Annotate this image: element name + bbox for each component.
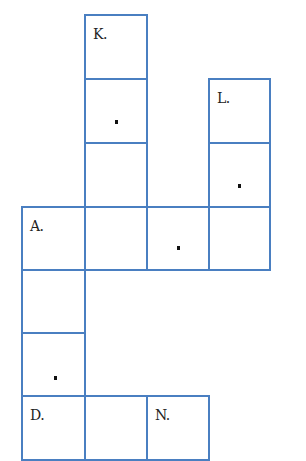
clue-label-l: L. <box>217 91 230 105</box>
dot-marker <box>54 376 57 380</box>
cell-dn-1[interactable]: D. <box>21 395 86 461</box>
clue-label-n: N. <box>155 408 170 422</box>
clue-label-k: K. <box>93 27 107 41</box>
clue-label-a: A. <box>30 219 44 233</box>
dot-marker <box>115 120 118 124</box>
cell-dn-2[interactable] <box>84 395 148 461</box>
cell-a-2[interactable] <box>84 206 148 271</box>
cell-l-2[interactable] <box>208 142 271 208</box>
clue-label-d: D. <box>30 408 44 422</box>
cell-k-3[interactable] <box>84 142 148 208</box>
dot-marker <box>238 184 241 188</box>
cell-l-1[interactable]: L. <box>208 78 271 144</box>
cell-a-3[interactable] <box>146 206 210 271</box>
cell-k-2[interactable] <box>84 78 148 144</box>
cell-d-2[interactable] <box>21 332 86 398</box>
cell-a-4[interactable] <box>208 206 271 271</box>
cell-a-1[interactable]: A. <box>21 206 86 271</box>
dot-marker <box>177 246 180 250</box>
cell-dn-3[interactable]: N. <box>146 395 210 461</box>
cell-k-1[interactable]: K. <box>84 14 148 80</box>
cell-d-1[interactable] <box>21 269 86 335</box>
